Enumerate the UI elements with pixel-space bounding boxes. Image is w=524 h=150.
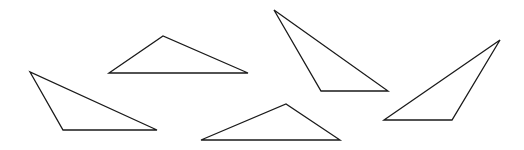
triangle-1 xyxy=(109,36,248,73)
triangle-4 xyxy=(274,10,388,91)
triangle-2 xyxy=(30,72,157,130)
triangles-diagram xyxy=(0,0,524,150)
triangle-3 xyxy=(201,104,340,140)
triangle-5 xyxy=(384,40,500,120)
